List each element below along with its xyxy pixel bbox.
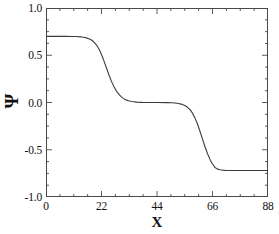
- series-psi-path: [46, 36, 268, 170]
- x-tick-label: 66: [207, 200, 218, 212]
- data-curve: [46, 8, 268, 197]
- y-tick-label: 0.5: [28, 49, 42, 61]
- x-tick-label: 0: [43, 200, 49, 212]
- chart-figure: -1.0-0.50.00.51.0 022446688 X Ψ: [0, 0, 279, 234]
- x-tick-label: 22: [96, 200, 107, 212]
- plot-area: [46, 8, 268, 197]
- y-tick-label: -1.0: [25, 191, 42, 203]
- y-tick-label: 0.0: [28, 97, 42, 109]
- x-axis-title: X: [46, 214, 268, 231]
- x-tick-label: 88: [262, 200, 273, 212]
- y-axis-title: Ψ: [1, 81, 23, 121]
- y-tick-label: -0.5: [25, 144, 42, 156]
- x-tick-label: 44: [151, 200, 162, 212]
- y-tick-label: 1.0: [28, 2, 42, 14]
